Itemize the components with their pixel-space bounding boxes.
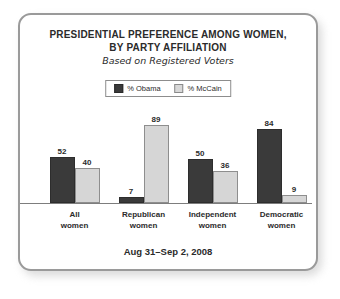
bar-obama-2 bbox=[188, 159, 213, 203]
chart-card: PRESIDENTIAL PREFERENCE AMONG WOMEN, BY … bbox=[18, 13, 318, 271]
category-label-3-line-1: Democratic bbox=[250, 209, 314, 220]
legend-item-obama: % Obama bbox=[114, 84, 160, 93]
bar-obama-0 bbox=[50, 157, 75, 203]
category-label-0-line-2: women bbox=[43, 220, 107, 231]
category-label-3-line-2: women bbox=[250, 220, 314, 231]
legend-swatch-obama-icon bbox=[114, 84, 123, 93]
bar-value-obama-0: 52 bbox=[50, 147, 75, 156]
figure-root: PRESIDENTIAL PREFERENCE AMONG WOMEN, BY … bbox=[0, 0, 340, 299]
bar-mccain-2 bbox=[213, 171, 238, 203]
bar-groups: 52 40 7 89 bbox=[40, 115, 316, 203]
bar-wrap-obama-3: 84 bbox=[257, 115, 282, 203]
bar-value-obama-3: 84 bbox=[257, 119, 282, 128]
axis-baseline bbox=[20, 203, 312, 204]
bar-value-obama-1: 7 bbox=[119, 187, 144, 196]
bar-value-mccain-3: 9 bbox=[282, 185, 307, 194]
bar-wrap-obama-0: 52 bbox=[50, 115, 75, 203]
bar-value-mccain-1: 89 bbox=[144, 115, 169, 124]
bar-wrap-obama-1: 7 bbox=[119, 115, 144, 203]
category-labels: All women Republican women Independent w… bbox=[40, 209, 316, 231]
legend-swatch-mccain-icon bbox=[175, 84, 184, 93]
category-label-0-line-1: All bbox=[43, 209, 107, 220]
chart-legend: % Obama % McCain bbox=[105, 80, 231, 97]
legend-label-obama: % Obama bbox=[127, 84, 160, 93]
bar-wrap-obama-2: 50 bbox=[188, 115, 213, 203]
bar-obama-3 bbox=[257, 129, 282, 203]
chart-title-line-1: PRESIDENTIAL PREFERENCE AMONG WOMEN, bbox=[20, 28, 316, 41]
legend-label-mccain: % McCain bbox=[188, 84, 222, 93]
bar-mccain-0 bbox=[75, 168, 100, 203]
category-label-3: Democratic women bbox=[250, 209, 314, 231]
category-label-1: Republican women bbox=[112, 209, 176, 231]
bar-group-all-women: 52 40 bbox=[50, 115, 100, 203]
category-label-0: All women bbox=[43, 209, 107, 231]
bar-wrap-mccain-3: 9 bbox=[282, 115, 307, 203]
category-label-2: Independent women bbox=[181, 209, 245, 231]
category-label-1-line-2: women bbox=[112, 220, 176, 231]
category-label-2-line-2: women bbox=[181, 220, 245, 231]
plot-area: 52 40 7 89 bbox=[40, 115, 316, 203]
title-block: PRESIDENTIAL PREFERENCE AMONG WOMEN, BY … bbox=[20, 28, 316, 67]
category-label-2-line-1: Independent bbox=[181, 209, 245, 220]
chart-subtitle: Based on Registered Voters bbox=[20, 55, 316, 67]
bar-wrap-mccain-0: 40 bbox=[75, 115, 100, 203]
bar-mccain-3 bbox=[282, 195, 307, 203]
bar-wrap-mccain-1: 89 bbox=[144, 115, 169, 203]
legend-item-mccain: % McCain bbox=[175, 84, 222, 93]
bar-group-democratic-women: 84 9 bbox=[257, 115, 307, 203]
bar-value-obama-2: 50 bbox=[188, 149, 213, 158]
bar-mccain-1 bbox=[144, 125, 169, 203]
bar-group-republican-women: 7 89 bbox=[119, 115, 169, 203]
bar-value-mccain-2: 36 bbox=[213, 161, 238, 170]
bar-group-independent-women: 50 36 bbox=[188, 115, 238, 203]
chart-date-note: Aug 31–Sep 2, 2008 bbox=[20, 246, 316, 257]
bar-value-mccain-0: 40 bbox=[75, 158, 100, 167]
bar-wrap-mccain-2: 36 bbox=[213, 115, 238, 203]
chart-title-line-2: BY PARTY AFFILIATION bbox=[20, 41, 316, 54]
category-label-1-line-1: Republican bbox=[112, 209, 176, 220]
